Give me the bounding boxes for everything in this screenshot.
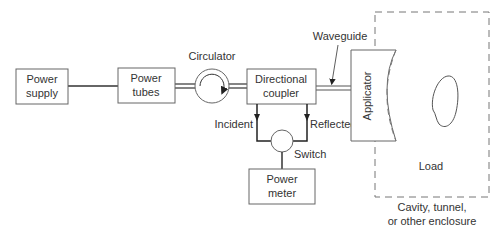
incident-path: [257, 104, 271, 141]
power-meter-label-1: Power: [266, 173, 298, 185]
load-label: Load: [419, 160, 443, 172]
enclosure-label-2: or other enclosure: [388, 215, 477, 227]
waveguide-label: Waveguide: [313, 30, 368, 42]
load-shape: [432, 76, 458, 127]
power-meter-label-2: meter: [268, 187, 296, 199]
power-tubes-label-1: Power: [130, 72, 162, 84]
power-supply-label-2: supply: [26, 87, 58, 99]
directional-coupler-label-1: Directional: [255, 73, 307, 85]
enclosure-label-1: Cavity, tunnel,: [398, 201, 467, 213]
power-supply-label-1: Power: [26, 73, 58, 85]
power-tubes-label-2: tubes: [133, 86, 160, 98]
microwave-system-diagram: Power supply Power tubes Circulator Dire…: [0, 0, 504, 234]
waveguide-pointer: [332, 45, 338, 82]
directional-coupler-label-2: coupler: [263, 87, 299, 99]
applicator-block: [351, 50, 396, 141]
circulator-label: Circulator: [188, 50, 235, 62]
switch-label: Switch: [294, 148, 326, 160]
incident-label: Incident: [214, 118, 253, 130]
applicator-label: Applicator: [361, 71, 373, 120]
switch: [271, 130, 293, 152]
reflected-label: Reflected: [310, 118, 356, 130]
reflected-path: [293, 104, 307, 141]
